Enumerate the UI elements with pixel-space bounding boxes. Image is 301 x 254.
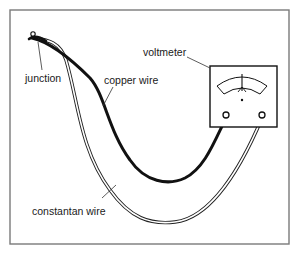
voltmeter (210, 66, 277, 127)
terminal-left (223, 112, 229, 118)
voltmeter-body (210, 66, 277, 127)
voltmeter-pivot-icon (241, 99, 243, 101)
thermocouple-diagram: junction copper wire voltmeter constanta… (0, 0, 301, 254)
copper-wire-label: copper wire (104, 74, 158, 86)
junction-label: junction (24, 72, 61, 84)
voltmeter-label: voltmeter (143, 46, 187, 58)
terminal-right (259, 112, 265, 118)
constantan-wire-label: constantan wire (32, 205, 106, 217)
